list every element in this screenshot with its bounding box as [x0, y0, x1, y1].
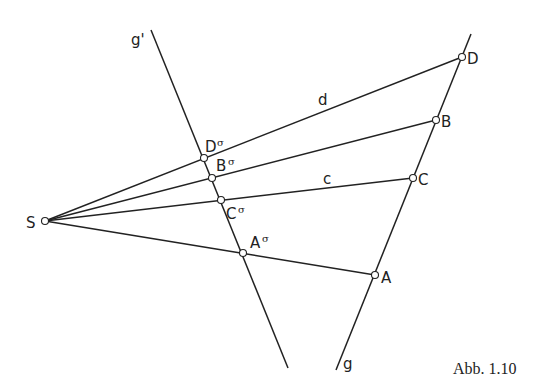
label-d: D [467, 50, 479, 68]
figure-canvas: gg'DDσBBσCCσAAσSdcAbb. 1.10 [0, 0, 542, 392]
label-s: S [26, 214, 36, 232]
point-c [410, 175, 417, 182]
label-b: B [441, 113, 451, 131]
point-a [372, 272, 379, 279]
ray-label-d: d [318, 91, 328, 109]
point-b [433, 117, 440, 124]
label-c-sigma: C [226, 205, 236, 223]
label-a: A [381, 269, 392, 287]
label-c: C [418, 171, 428, 189]
superscript-sigma: σ [262, 233, 269, 244]
superscript-sigma: σ [238, 204, 245, 215]
line-g [336, 34, 471, 370]
superscript-sigma: σ [228, 156, 235, 167]
superscript-sigma: σ [217, 137, 224, 148]
point-c-sigma [218, 197, 225, 204]
point-a-sigma [240, 250, 247, 257]
point-d [459, 54, 466, 61]
point-b-sigma [209, 175, 216, 182]
perspectivity-diagram: gg'DDσBBσCCσAAσSdcAbb. 1.10 [0, 0, 542, 392]
label-g-prime: g' [131, 31, 145, 49]
label-a-sigma: A [250, 234, 261, 252]
ray-label-c: c [323, 170, 331, 188]
point-s [42, 218, 49, 225]
ray-s-a [45, 221, 375, 275]
label-d-sigma: D [205, 138, 217, 156]
figure-caption: Abb. 1.10 [453, 360, 517, 377]
label-g: g [343, 355, 353, 373]
label-b-sigma: B [216, 157, 226, 175]
